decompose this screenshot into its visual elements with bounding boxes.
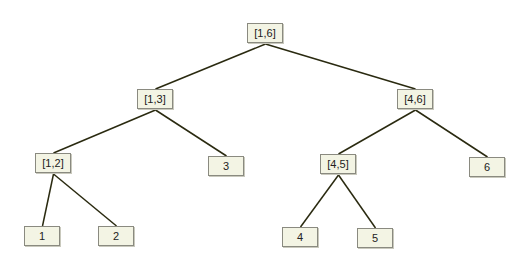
tree-edge: [156, 110, 227, 156]
tree-edge: [301, 175, 339, 227]
node-1-2: [1,2]: [35, 153, 71, 173]
segment-tree-diagram: [1,6] [1,3] [4,6] [1,2] 3 [4,5] 6 1 2 4 …: [0, 0, 529, 266]
tree-edge: [43, 174, 54, 226]
node-1-3: [1,3]: [137, 89, 173, 109]
node-4: 4: [282, 227, 318, 247]
node-2: 2: [98, 226, 134, 246]
node-6: 6: [469, 157, 505, 177]
tree-edge: [266, 44, 416, 89]
tree-edge: [156, 44, 266, 89]
node-1-6: [1,6]: [247, 23, 283, 43]
node-4-6: [4,6]: [397, 89, 433, 109]
node-5: 5: [357, 228, 393, 248]
node-3: 3: [208, 156, 244, 176]
tree-edge: [339, 175, 376, 228]
node-4-5: [4,5]: [320, 154, 356, 174]
tree-edge: [339, 110, 416, 154]
tree-edge: [416, 110, 488, 157]
tree-edge: [54, 110, 156, 153]
node-1: 1: [24, 226, 60, 246]
tree-edge: [54, 174, 117, 226]
